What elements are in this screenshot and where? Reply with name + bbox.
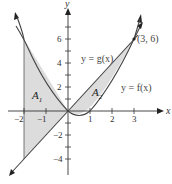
area-between-curves-diagram: −2 −1 1 2 3 6 4 2 −2 −4 x y y = g(x) y =… bbox=[0, 0, 172, 184]
y-tick-label-2: 2 bbox=[57, 82, 62, 92]
x-tick-label-3: 3 bbox=[132, 114, 137, 124]
y-axis-arrow-icon bbox=[65, 8, 71, 15]
x-axis-arrow-icon bbox=[157, 108, 164, 114]
x-tick-label-1: 1 bbox=[88, 114, 93, 124]
x-tick-label-neg2: −2 bbox=[14, 114, 24, 124]
intersection-point bbox=[132, 37, 135, 40]
region-a1-shade bbox=[24, 39, 68, 159]
curve-f-left-tail bbox=[17, 17, 24, 39]
point-label: (3, 6) bbox=[137, 33, 159, 45]
y-tick-label-neg4: −4 bbox=[53, 154, 63, 164]
y-tick-label-6: 6 bbox=[57, 34, 62, 44]
x-axis-label: x bbox=[165, 105, 171, 116]
x-tick-label-2: 2 bbox=[110, 114, 115, 124]
x-tick-label-neg1: −1 bbox=[37, 114, 47, 124]
y-axis-label: y bbox=[64, 0, 70, 9]
curve-g-label: y = g(x) bbox=[81, 53, 113, 65]
y-tick-label-4: 4 bbox=[57, 58, 62, 68]
curve-f-label: y = f(x) bbox=[121, 82, 152, 94]
y-tick-label-neg2: −2 bbox=[53, 130, 63, 140]
